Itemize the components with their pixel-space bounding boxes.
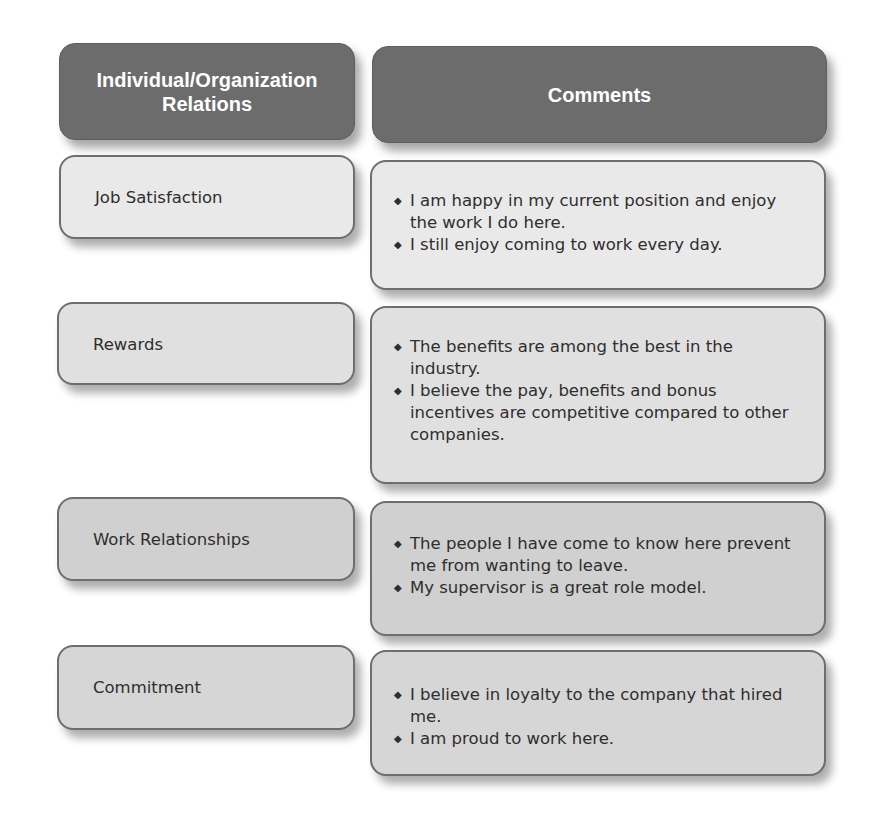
row-comments-commitment: ◆I believe in loyalty to the company tha… bbox=[370, 650, 826, 776]
comment-item: ◆I am happy in my current position and e… bbox=[394, 190, 804, 234]
diamond-bullet-icon: ◆ bbox=[394, 190, 402, 212]
row-comments-work-relationships: ◆The people I have come to know here pre… bbox=[370, 501, 826, 636]
diamond-bullet-icon: ◆ bbox=[394, 684, 402, 706]
header-comments-label: Comments bbox=[548, 83, 651, 107]
row-label-work-relationships: Work Relationships bbox=[57, 497, 355, 581]
diamond-bullet-icon: ◆ bbox=[394, 336, 402, 358]
diamond-bullet-icon: ◆ bbox=[394, 380, 402, 402]
row-label-text: Work Relationships bbox=[59, 499, 353, 551]
row-label-text: Job Satisfaction bbox=[61, 157, 353, 209]
comment-list: ◆The benefits are among the best in the … bbox=[394, 336, 806, 446]
header-relations: Individual/Organization Relations bbox=[59, 43, 355, 140]
header-relations-line1: Individual/Organization bbox=[96, 68, 317, 92]
comment-item: ◆I believe in loyalty to the company tha… bbox=[394, 684, 804, 728]
diamond-bullet-icon: ◆ bbox=[394, 728, 402, 750]
comment-list: ◆I am happy in my current position and e… bbox=[394, 190, 804, 256]
header-comments: Comments bbox=[372, 46, 827, 143]
comment-item: ◆I still enjoy coming to work every day. bbox=[394, 234, 804, 256]
comment-list: ◆I believe in loyalty to the company tha… bbox=[394, 684, 804, 750]
row-label-text: Commitment bbox=[59, 647, 353, 699]
row-comments-rewards: ◆The benefits are among the best in the … bbox=[370, 306, 826, 484]
comment-item: ◆The people I have come to know here pre… bbox=[394, 533, 804, 577]
diamond-bullet-icon: ◆ bbox=[394, 234, 402, 256]
row-label-commitment: Commitment bbox=[57, 645, 355, 730]
row-comments-job-satisfaction: ◆I am happy in my current position and e… bbox=[370, 160, 826, 290]
comment-item: ◆I am proud to work here. bbox=[394, 728, 804, 750]
comment-item: ◆I believe the pay, benefits and bonus i… bbox=[394, 380, 806, 446]
diamond-bullet-icon: ◆ bbox=[394, 533, 402, 555]
row-label-job-satisfaction: Job Satisfaction bbox=[59, 155, 355, 239]
header-relations-line2: Relations bbox=[96, 92, 317, 116]
row-label-rewards: Rewards bbox=[57, 302, 355, 385]
comment-item: ◆The benefits are among the best in the … bbox=[394, 336, 806, 380]
comment-item: ◆My supervisor is a great role model. bbox=[394, 577, 804, 599]
row-label-text: Rewards bbox=[59, 304, 353, 356]
comment-list: ◆The people I have come to know here pre… bbox=[394, 533, 804, 599]
diamond-bullet-icon: ◆ bbox=[394, 577, 402, 599]
